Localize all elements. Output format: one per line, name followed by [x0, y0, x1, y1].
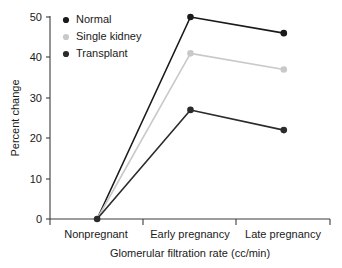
- x-tick-label-early-pregnancy: Early pregnancy: [150, 228, 230, 240]
- legend-label-single-kidney: Single kidney: [76, 30, 142, 42]
- legend-marker-single-kidney: [63, 34, 69, 40]
- y-axis-tick-labels: 50 40 30 20 10 0: [30, 11, 42, 225]
- y-tick-label: 0: [36, 213, 42, 225]
- data-point: [187, 107, 194, 114]
- y-tick-label: 50: [30, 11, 42, 23]
- data-point: [187, 14, 194, 21]
- series-single-kidney: [97, 50, 287, 219]
- series-normal: [97, 14, 287, 219]
- y-axis-title: Percent change: [9, 79, 21, 156]
- chart-figure: 50 40 30 20 10 0 Percent change Nonpregn…: [0, 0, 342, 268]
- data-point: [281, 30, 288, 37]
- x-axis-tick-labels: Nonpregnant Early pregnancy Late pregnan…: [64, 228, 321, 240]
- x-axis-ticks: [50, 219, 330, 225]
- legend-label-transplant: Transplant: [76, 47, 128, 59]
- y-axis-ticks: [46, 17, 50, 219]
- y-tick-label: 20: [30, 132, 42, 144]
- series-layer: [94, 14, 287, 223]
- x-axis-title: Glomerular filtration rate (cc/min): [110, 247, 270, 259]
- y-tick-label: 40: [30, 51, 42, 63]
- data-point: [94, 216, 101, 223]
- data-point: [281, 127, 288, 134]
- legend-marker-transplant: [63, 51, 69, 57]
- chart-legend: Normal Single kidney Transplant: [63, 13, 142, 59]
- y-tick-label: 30: [30, 92, 42, 104]
- y-tick-label: 10: [30, 173, 42, 185]
- data-point: [281, 66, 288, 73]
- line-chart: 50 40 30 20 10 0 Percent change Nonpregn…: [0, 0, 342, 268]
- x-tick-label-late-pregnancy: Late pregnancy: [245, 228, 321, 240]
- legend-label-normal: Normal: [76, 13, 111, 25]
- series-line: [97, 53, 284, 219]
- data-point: [187, 50, 194, 57]
- x-tick-label-nonpregnant: Nonpregnant: [64, 228, 128, 240]
- series-line: [97, 110, 284, 219]
- legend-marker-normal: [63, 17, 69, 23]
